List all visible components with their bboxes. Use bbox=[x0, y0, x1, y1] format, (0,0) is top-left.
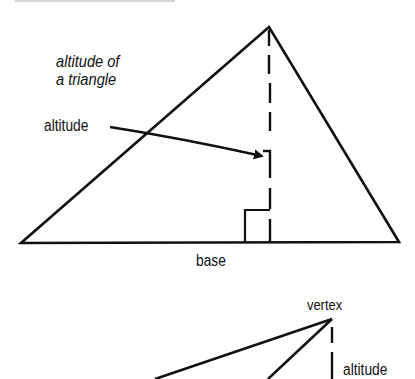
triangle-2 bbox=[155, 319, 332, 379]
right-angle-marker bbox=[245, 210, 270, 242]
altitude-label-2: altitude bbox=[343, 362, 387, 378]
figure-title-line2: a triangle bbox=[56, 71, 119, 89]
altitude-label: altitude bbox=[44, 118, 88, 134]
altitude-pointer-arrow bbox=[110, 127, 262, 156]
figure-title-line1: altitude of bbox=[56, 53, 119, 71]
figure-title: altitude of a triangle bbox=[56, 53, 119, 89]
base-label: base bbox=[196, 253, 226, 269]
vertex-label: vertex bbox=[307, 297, 342, 312]
